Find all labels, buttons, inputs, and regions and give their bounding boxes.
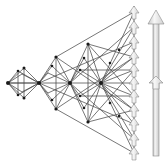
node-cross <box>51 99 54 102</box>
node-cross <box>17 94 20 97</box>
node-cross <box>54 55 57 58</box>
node-cross <box>109 102 112 105</box>
node-cross <box>51 65 54 68</box>
node-focal-2 <box>68 81 72 85</box>
node-cross <box>86 42 89 45</box>
node-cross <box>79 69 82 72</box>
node-cross <box>86 120 89 123</box>
node-cross <box>83 57 86 60</box>
node-cross <box>17 70 20 73</box>
node-cross <box>23 67 26 70</box>
figure-background <box>0 0 167 163</box>
node-cross <box>83 107 86 110</box>
node-cross <box>118 49 120 51</box>
diagram-canvas <box>0 0 167 163</box>
node-cross <box>54 107 57 110</box>
ray-diagram-figure: Ray fan beam-propagation schematic <box>0 0 167 163</box>
node-cross <box>118 115 120 117</box>
node-source <box>6 81 10 85</box>
node-cross <box>23 97 26 100</box>
node-cross <box>79 95 82 98</box>
node-focal-3 <box>99 81 103 85</box>
node-focal-1 <box>37 81 41 85</box>
node-cross <box>109 62 112 65</box>
